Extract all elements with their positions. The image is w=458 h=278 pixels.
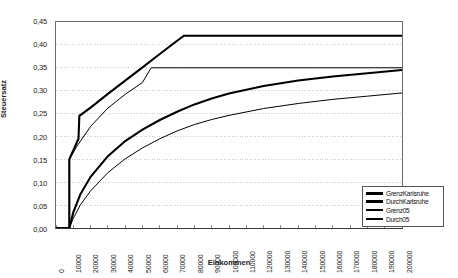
series-grenz05 [56, 68, 402, 228]
series-grenzkarlsruhe [56, 36, 402, 228]
legend-label: GrenzKarlsruhe [386, 190, 429, 197]
y-tick-label: 0,00 [33, 225, 47, 234]
legend-label: Durch05 [386, 216, 409, 223]
y-tick-label: 0,10 [33, 178, 47, 187]
y-tick-label: 0,15 [33, 155, 47, 164]
plot-area [55, 21, 403, 229]
legend-line-swatch [366, 200, 383, 203]
y-tick-label: 0,40 [33, 40, 47, 49]
legend-line-swatch [366, 192, 383, 195]
legend-item: Durch05 [366, 215, 440, 224]
y-tick-label: 0,35 [33, 63, 47, 72]
x-axis-tick-labels: 0100002000030000400005000060000700008000… [55, 231, 403, 275]
y-axis-title: Steuersatz [0, 80, 8, 118]
chart-legend: GrenzKarlsruheDurchKarlsruheGrenz05Durch… [362, 186, 444, 227]
legend-label: DurchKarlsruhe [386, 198, 428, 205]
tax-rate-chart: 0,000,050,100,150,200,250,300,350,400,45… [0, 0, 458, 278]
y-tick-label: 0,05 [33, 201, 47, 210]
legend-line-swatch [366, 209, 383, 211]
x-tick-label: 0 [58, 269, 65, 273]
y-tick-label: 0,30 [33, 86, 47, 95]
legend-item: Grenz05 [366, 206, 440, 215]
y-tick-label: 0,45 [33, 17, 47, 26]
y-tick-label: 0,25 [33, 109, 47, 118]
legend-item: GrenzKarlsruhe [366, 189, 440, 198]
x-axis-title: Einkommen [0, 258, 458, 267]
series-lines [56, 22, 402, 228]
series-durch05 [56, 93, 402, 228]
y-tick-label: 0,20 [33, 132, 47, 141]
y-axis-tick-labels: 0,000,050,100,150,200,250,300,350,400,45 [0, 0, 52, 250]
legend-label: Grenz05 [386, 207, 410, 214]
legend-item: DurchKarlsruhe [366, 198, 440, 207]
legend-line-swatch [366, 218, 383, 219]
